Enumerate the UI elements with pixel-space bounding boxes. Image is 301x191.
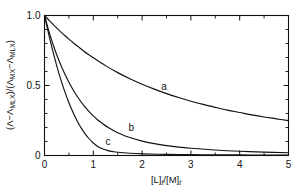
axis-tick-labels: 01234500.51.0 bbox=[27, 10, 292, 170]
y-title-close: ) bbox=[4, 40, 15, 43]
x-tick-label: 0 bbox=[42, 159, 48, 170]
x-title-sub-t2: t bbox=[179, 179, 182, 186]
chart-canvas: 01234500.51.0 abc [L]t/[M]t (Λ−ΛMLX)/(ΛM… bbox=[0, 0, 301, 191]
svg-text:(Λ−ΛMLX)/(ΛMX−ΛMLX): (Λ−ΛMLX)/(ΛMX−ΛMLX) bbox=[4, 40, 16, 130]
x-tick-label: 4 bbox=[237, 159, 243, 170]
y-axis-title: (Λ−ΛMLX)/(ΛMX−ΛMLX) bbox=[4, 40, 16, 130]
y-tick-label: 0.5 bbox=[27, 80, 41, 91]
curve-label-a: a bbox=[161, 81, 167, 92]
x-title-lt: [L] bbox=[151, 174, 162, 185]
curve-a bbox=[45, 16, 289, 121]
y-tick-label: 1.0 bbox=[27, 10, 41, 21]
curve-label-b: b bbox=[129, 122, 135, 133]
x-tick-label: 1 bbox=[91, 159, 97, 170]
x-tick-label: 3 bbox=[188, 159, 194, 170]
y-tick-label: 0 bbox=[35, 150, 41, 161]
y-title-sub-mlx2: MLX bbox=[9, 43, 16, 57]
y-title-sub-mx: MX bbox=[9, 69, 16, 80]
svg-text:[L]t/[M]t: [L]t/[M]t bbox=[151, 174, 182, 186]
x-title-mt: [M] bbox=[166, 174, 179, 185]
x-tick-label: 5 bbox=[286, 159, 292, 170]
curve-label-c: c bbox=[105, 136, 110, 147]
chart-figure: 01234500.51.0 abc [L]t/[M]t (Λ−ΛMLX)/(ΛM… bbox=[0, 0, 301, 191]
x-axis-title: [L]t/[M]t bbox=[151, 174, 182, 186]
y-title-sub-mlx1: MLX bbox=[9, 94, 16, 108]
x-tick-label: 2 bbox=[139, 159, 145, 170]
